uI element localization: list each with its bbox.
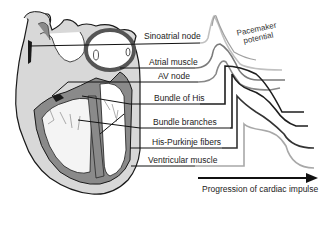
trace-av-node	[198, 61, 280, 90]
trace-atrial-muscle	[195, 44, 285, 80]
label-bundle-branches: Bundle branches	[153, 118, 217, 127]
label-atrial-muscle: Atrial muscle	[149, 58, 198, 67]
progression-label: Progression of cardiac impulse	[202, 184, 318, 194]
label-av-node: AV node	[158, 72, 190, 81]
label-sinoatrial-node: Sinoatrial node	[144, 32, 201, 41]
label-his-purkinje-fibers: His-Purkinje fibers	[152, 138, 221, 147]
progression-arrow	[198, 173, 318, 183]
label-bundle-of-his: Bundle of His	[154, 94, 205, 103]
label-ventricular-muscle: Ventricular muscle	[148, 156, 217, 165]
trace-his-purkinje	[222, 96, 314, 148]
